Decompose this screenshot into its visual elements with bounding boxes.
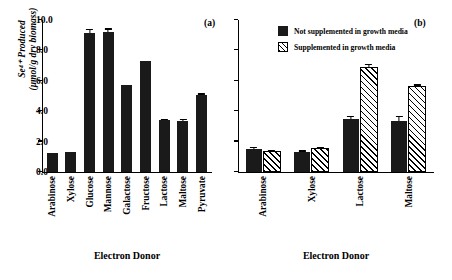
error-bar bbox=[164, 119, 165, 121]
category-label: Lactose bbox=[155, 176, 174, 246]
bar bbox=[246, 149, 262, 172]
bar-group bbox=[43, 20, 62, 172]
x-axis-categories-b: ArabinoseXyloseLactoseMaltose bbox=[239, 176, 433, 246]
category-label-text: Lactose bbox=[159, 176, 169, 206]
panel-tag-b: (b) bbox=[414, 18, 426, 28]
category-label: Lactose bbox=[336, 176, 385, 246]
y-tick bbox=[234, 49, 238, 50]
bar bbox=[159, 120, 170, 172]
error-bar bbox=[320, 147, 321, 149]
bar bbox=[140, 61, 151, 172]
bar bbox=[294, 152, 310, 172]
bar-group bbox=[99, 20, 118, 172]
category-label: Arabinose bbox=[43, 176, 62, 246]
figure: Se⁴⁺ Produced (μmol/g dry biomass) 0.02.… bbox=[0, 0, 452, 280]
error-bar bbox=[271, 150, 272, 152]
category-label: Galactose bbox=[118, 176, 137, 246]
y-tick bbox=[234, 19, 238, 20]
y-tick bbox=[234, 171, 238, 172]
legend-item: Supplemented in growth media bbox=[278, 42, 408, 52]
x-axis-title-b: Electron Donor bbox=[239, 250, 433, 261]
legend-item: Not supplemented in growth media bbox=[278, 26, 408, 36]
category-label: Xylose bbox=[288, 176, 337, 246]
bar bbox=[343, 119, 359, 172]
bar bbox=[311, 148, 329, 172]
bar bbox=[263, 151, 281, 172]
bar bbox=[47, 153, 58, 172]
bar bbox=[196, 95, 207, 172]
category-label-text: Maltose bbox=[404, 176, 414, 208]
error-bar bbox=[253, 147, 254, 149]
error-bar bbox=[368, 64, 369, 68]
category-label-text: Fructose bbox=[141, 176, 151, 211]
category-label: Maltose bbox=[174, 176, 193, 246]
bar-group bbox=[174, 20, 193, 172]
legend-label: Not supplemented in growth media bbox=[294, 27, 408, 36]
y-tick bbox=[234, 80, 238, 81]
category-label: Mannose bbox=[99, 176, 118, 246]
bar-group bbox=[118, 20, 137, 172]
bar bbox=[103, 32, 114, 172]
category-label: Maltose bbox=[385, 176, 434, 246]
bar bbox=[360, 67, 378, 172]
bar bbox=[65, 152, 76, 172]
category-label-text: Galactose bbox=[122, 176, 132, 215]
bar-group bbox=[192, 20, 211, 172]
legend-label: Supplemented in growth media bbox=[294, 43, 395, 52]
error-bar bbox=[182, 119, 183, 121]
category-label-text: Pyruvate bbox=[197, 176, 207, 212]
error-bar bbox=[201, 93, 202, 95]
x-axis-categories-a: ArabinoseXyloseGlucoseMannoseGalactoseFr… bbox=[43, 176, 211, 246]
category-label-text: Arabinose bbox=[47, 176, 57, 217]
y-axis-label-line1: Se⁴⁺ Produced bbox=[17, 20, 27, 78]
bar bbox=[84, 33, 95, 172]
category-label: Glucose bbox=[80, 176, 99, 246]
category-label: Pyruvate bbox=[192, 176, 211, 246]
plot-area-a: 0.02.04.06.08.010.0 bbox=[42, 20, 212, 173]
error-bar bbox=[108, 28, 109, 32]
error-bar bbox=[417, 84, 418, 87]
y-tick bbox=[234, 140, 238, 141]
error-bar bbox=[302, 150, 303, 152]
bar bbox=[177, 121, 188, 172]
category-label: Arabinose bbox=[239, 176, 288, 246]
y-tick bbox=[234, 110, 238, 111]
category-label-text: Glucose bbox=[85, 176, 95, 208]
category-label-text: Lactose bbox=[355, 176, 365, 206]
legend-swatch-solid bbox=[278, 26, 288, 36]
bar-series-a bbox=[43, 20, 211, 172]
error-bar bbox=[89, 29, 90, 33]
category-label-text: Arabinose bbox=[258, 176, 268, 217]
bar bbox=[121, 85, 132, 172]
bar-group bbox=[155, 20, 174, 172]
category-label-text: Maltose bbox=[178, 176, 188, 208]
error-bar bbox=[399, 116, 400, 121]
category-label-text: Mannose bbox=[103, 176, 113, 212]
bar bbox=[391, 121, 407, 172]
x-axis-title-a: Electron Donor bbox=[43, 250, 211, 261]
panel-tag-a: (a) bbox=[204, 18, 215, 28]
category-label-text: Xylose bbox=[307, 176, 317, 202]
bar-group bbox=[136, 20, 155, 172]
legend-swatch-hatched bbox=[278, 42, 288, 52]
error-bar bbox=[350, 116, 351, 119]
category-label-text: Xylose bbox=[66, 176, 76, 202]
category-label: Xylose bbox=[62, 176, 81, 246]
bar bbox=[408, 86, 426, 172]
panel-a: 0.02.04.06.08.010.0 bbox=[42, 20, 212, 173]
category-label: Fructose bbox=[136, 176, 155, 246]
legend: Not supplemented in growth mediaSuppleme… bbox=[278, 26, 408, 58]
bar-group bbox=[62, 20, 81, 172]
bar-group bbox=[80, 20, 99, 172]
y-axis-label: Se⁴⁺ Produced (μmol/g dry biomass) bbox=[19, 0, 37, 129]
